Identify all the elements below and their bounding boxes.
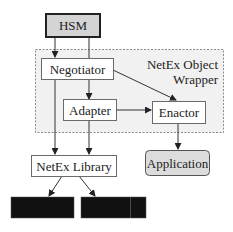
wrapper-label-line1: NetEx Object <box>147 57 219 72</box>
adapter-label: Adapter <box>69 103 112 118</box>
node-adapter: Adapter <box>64 100 117 121</box>
edge-library-redacted2 <box>79 176 95 196</box>
architecture-diagram: NetEx Object Wrapper HSM Negotiator Adap… <box>0 0 233 232</box>
node-hsm: HSM <box>46 14 100 37</box>
application-label: Application <box>147 156 209 171</box>
wrapper-label-line2: Wrapper <box>173 72 219 87</box>
node-redacted-2 <box>81 197 146 218</box>
node-redacted-1 <box>11 197 74 218</box>
node-netex-library: NetEx Library <box>32 156 117 177</box>
negotiator-label: Negotiator <box>50 62 106 77</box>
netex-library-label: NetEx Library <box>36 159 112 174</box>
node-negotiator: Negotiator <box>42 59 114 80</box>
hsm-label: HSM <box>59 18 88 33</box>
node-application: Application <box>146 151 210 176</box>
node-enactor: Enactor <box>153 102 206 124</box>
enactor-label: Enactor <box>159 105 200 120</box>
edge-library-redacted1 <box>49 176 62 196</box>
